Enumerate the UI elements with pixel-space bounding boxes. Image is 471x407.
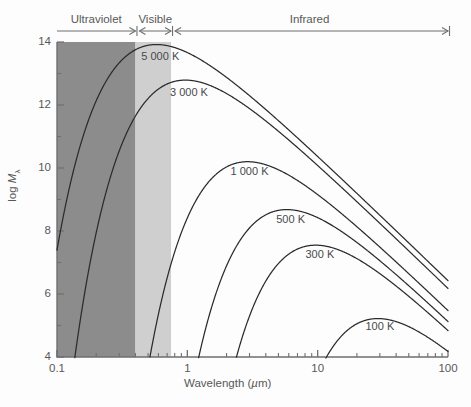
y-axis-subscript: λ xyxy=(13,170,22,174)
x-tick-label: 10 xyxy=(298,362,338,374)
spectral-band-fills xyxy=(57,42,171,357)
x-tick-label: 0.1 xyxy=(37,362,77,374)
y-axis-title: log Mλ xyxy=(6,156,21,216)
curve-label-100k: 100 K xyxy=(350,320,410,332)
y-tick-label: 8 xyxy=(33,224,51,236)
curve-label-300k: 300 K xyxy=(290,248,350,260)
y-tick-label: 12 xyxy=(33,98,51,110)
blackbody-radiation-chart: Ultraviolet Visible Infrared log Mλ Wave… xyxy=(0,0,471,407)
y-tick-label: 14 xyxy=(33,35,51,47)
spectral-band-arrows xyxy=(57,26,450,36)
x-tick-label: 1 xyxy=(167,362,207,374)
x-axis-title-end: m) xyxy=(258,377,271,389)
band-label-visible: Visible xyxy=(95,13,215,25)
curve-label-5000k: 5 000 K xyxy=(130,50,190,62)
y-tick-label: 10 xyxy=(33,161,51,173)
curve-label-500k: 500 K xyxy=(261,213,321,225)
y-tick-label: 6 xyxy=(33,287,51,299)
y-tick-label: 4 xyxy=(33,350,51,362)
y-axis-title-text: log xyxy=(6,183,18,202)
y-axis-symbol: M xyxy=(6,174,18,184)
x-axis-title: Wavelength (µm) xyxy=(184,377,271,389)
x-tick-label: 100 xyxy=(428,362,468,374)
x-axis-title-text: Wavelength ( xyxy=(184,377,251,389)
blackbody-curve-500k xyxy=(199,210,448,358)
curve-label-3000k: 3 000 K xyxy=(159,86,219,98)
x-axis-unit-symbol: µ xyxy=(251,377,258,389)
chart-canvas xyxy=(0,0,471,407)
curve-label-1000k: 1 000 K xyxy=(220,165,280,177)
blackbody-curve-300k xyxy=(236,245,448,357)
band-label-infrared: Infrared xyxy=(250,13,370,25)
band-fill-ultraviolet xyxy=(57,42,135,357)
